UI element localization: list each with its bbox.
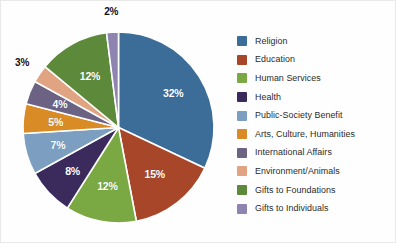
legend-item[interactable]: Religion xyxy=(237,32,395,51)
pie-slice-value-label: 15% xyxy=(145,168,165,180)
legend-color-swatch xyxy=(237,36,247,46)
pie-slice-value-label: 4% xyxy=(53,98,68,110)
legend-item[interactable]: Arts, Culture, Humanities xyxy=(237,125,395,144)
legend-item[interactable]: Human Services xyxy=(237,69,395,88)
legend-item-label: Religion xyxy=(255,37,287,46)
pie-slice-value-label: 32% xyxy=(163,87,183,99)
legend: ReligionEducationHuman ServicesHealthPub… xyxy=(237,32,395,218)
legend-item-label: Environment/Animals xyxy=(255,167,340,176)
pie-slice-value-label: 8% xyxy=(65,165,80,177)
legend-item-label: Education xyxy=(255,55,295,64)
legend-color-swatch xyxy=(237,166,247,176)
legend-item-label: Public-Society Benefit xyxy=(255,111,342,120)
legend-item-label: Human Services xyxy=(255,74,321,83)
pie-slice-value-label: 7% xyxy=(51,139,66,151)
pie-slice-value-label: 5% xyxy=(48,116,63,128)
legend-color-swatch xyxy=(237,204,247,214)
pie-chart-area: 32%15%12%8%7%5%4%3%12%2% xyxy=(1,1,233,243)
legend-color-swatch xyxy=(237,129,247,139)
legend-item[interactable]: Education xyxy=(237,51,395,70)
legend-item[interactable]: Gifts to Individuals xyxy=(237,199,395,218)
legend-item[interactable]: International Affairs xyxy=(237,144,395,163)
legend-item[interactable]: Environment/Animals xyxy=(237,162,395,181)
pie-slice-value-label: 12% xyxy=(80,70,100,82)
legend-item-label: Health xyxy=(255,93,281,102)
legend-item-label: Arts, Culture, Humanities xyxy=(255,130,355,139)
pie-slice-value-label: 2% xyxy=(104,6,118,17)
legend-color-swatch xyxy=(237,148,247,158)
legend-item-label: Gifts to Individuals xyxy=(255,204,329,213)
legend-item-label: Gifts to Foundations xyxy=(255,186,335,195)
legend-item[interactable]: Public-Society Benefit xyxy=(237,106,395,125)
legend-color-swatch xyxy=(237,55,247,65)
legend-item[interactable]: Gifts to Foundations xyxy=(237,181,395,200)
legend-color-swatch xyxy=(237,111,247,121)
chart-figure: 32%15%12%8%7%5%4%3%12%2% ReligionEducati… xyxy=(0,0,396,243)
legend-item-label: International Affairs xyxy=(255,148,332,157)
legend-color-swatch xyxy=(237,185,247,195)
pie-slice-value-label: 3% xyxy=(15,57,29,68)
legend-item[interactable]: Health xyxy=(237,88,395,107)
pie-slice-value-label: 12% xyxy=(97,180,117,192)
legend-color-swatch xyxy=(237,73,247,83)
legend-color-swatch xyxy=(237,92,247,102)
pie-chart-svg xyxy=(1,1,233,243)
